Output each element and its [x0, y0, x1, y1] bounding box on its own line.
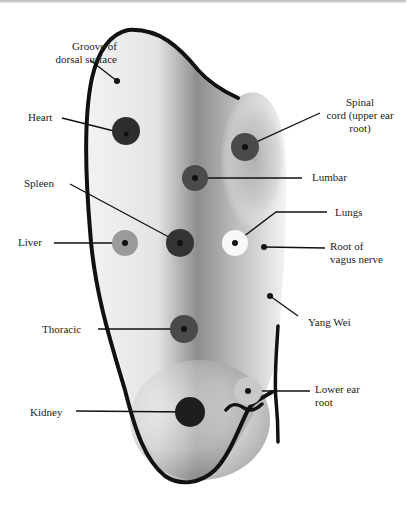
point-kidney — [175, 397, 205, 427]
label-groove-line2: dorsal surface — [27, 53, 117, 66]
label-spinal-line1: Spinal — [320, 96, 400, 109]
label-spinal-line3: root) — [320, 122, 400, 135]
label-lower-ear-line2: root — [315, 396, 360, 409]
label-spinal-cord: Spinal cord (upper ear root) — [320, 96, 400, 135]
label-groove-line1: Groove of — [27, 40, 117, 53]
label-vagus-line1: Root of — [330, 240, 383, 253]
label-vagus-line2: vagus nerve — [330, 253, 383, 266]
helix-fold-shade — [220, 90, 290, 230]
label-lower-ear-line1: Lower ear — [315, 383, 360, 396]
label-thoracic: Thoracic — [42, 323, 81, 336]
label-lower-ear-root: Lower ear root — [315, 383, 360, 409]
label-spinal-line2: cord (upper ear — [320, 109, 400, 122]
label-vagus: Root of vagus nerve — [330, 240, 383, 266]
label-heart: Heart — [28, 111, 52, 124]
point-heart — [112, 117, 140, 145]
label-groove: Groove of dorsal surface — [27, 40, 117, 66]
label-spleen: Spleen — [24, 177, 54, 190]
ear-root-line — [275, 326, 278, 442]
label-kidney: Kidney — [30, 406, 62, 419]
label-liver: Liver — [18, 236, 42, 249]
label-lungs: Lungs — [335, 206, 363, 219]
label-lumbar: Lumbar — [312, 171, 347, 184]
label-yang-wei: Yang Wei — [308, 316, 351, 329]
